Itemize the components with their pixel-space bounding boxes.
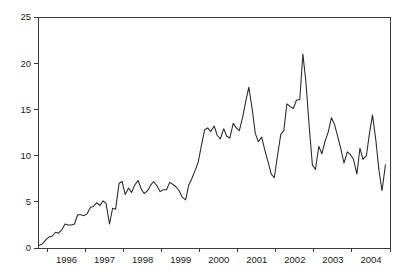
x-tick-label: 2003 xyxy=(322,254,343,265)
x-tick-label: 1996 xyxy=(56,254,77,265)
chart-axes xyxy=(38,17,390,248)
tick-marks xyxy=(34,17,390,252)
x-tick-label: 2004 xyxy=(360,254,381,265)
y-tick-label: 0 xyxy=(26,242,31,253)
plot-frame xyxy=(38,17,390,248)
y-tick-label: 10 xyxy=(20,150,31,161)
y-tick-label: 15 xyxy=(20,104,31,115)
x-tick-label: 1998 xyxy=(132,254,153,265)
x-tick-label: 1997 xyxy=(94,254,115,265)
x-tick-label: 2001 xyxy=(246,254,267,265)
y-tick-label: 20 xyxy=(20,58,31,69)
y-tick-label: 25 xyxy=(20,11,31,22)
chart-canvas: 0510152025 19961997199819992000200120022… xyxy=(0,0,411,279)
x-tick-label: 1999 xyxy=(170,254,191,265)
data-series-group xyxy=(40,54,386,245)
x-tick-label: 2000 xyxy=(208,254,229,265)
y-tick-label: 5 xyxy=(26,196,31,207)
y-axis-tick-labels: 0510152025 xyxy=(20,11,31,253)
x-axis-tick-labels: 199619971998199920002001200220032004 xyxy=(56,254,382,265)
x-tick-label: 2002 xyxy=(284,254,305,265)
data-line-series-1 xyxy=(40,54,386,245)
line-chart: 0510152025 19961997199819992000200120022… xyxy=(0,0,411,279)
